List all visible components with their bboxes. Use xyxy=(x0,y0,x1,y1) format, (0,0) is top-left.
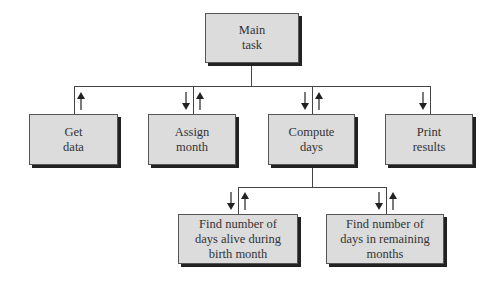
arrow-up-icon xyxy=(77,92,85,110)
arrow-down-icon xyxy=(227,192,235,210)
arrow-down-icon xyxy=(375,192,383,210)
connector-assign xyxy=(193,86,194,114)
node-main-task: Main task xyxy=(205,13,299,63)
node-assign-month: Assign month xyxy=(148,114,236,165)
node-compute-days: Compute days xyxy=(268,114,355,165)
arrow-down-icon xyxy=(301,92,309,110)
node-print-results: Print results xyxy=(385,114,473,165)
arrow-down-icon xyxy=(419,92,427,110)
arrow-up-icon xyxy=(315,92,323,110)
connector-birth xyxy=(238,187,239,214)
connector-remaining xyxy=(386,187,387,214)
connector-get xyxy=(74,86,75,114)
arrow-up-icon xyxy=(196,92,204,110)
arrow-up-icon xyxy=(389,192,397,210)
connector-compute xyxy=(312,86,313,114)
connector-print xyxy=(430,86,431,114)
node-birth-month-days: Find number of days alive during birth m… xyxy=(178,214,298,264)
node-get-data: Get data xyxy=(29,114,118,165)
node-remaining-months-days: Find number of days in remaining months xyxy=(326,214,444,264)
arrow-down-icon xyxy=(182,92,190,110)
connector-compute-down xyxy=(312,165,313,187)
arrow-up-icon xyxy=(241,192,249,210)
connector-level1-bus xyxy=(74,86,430,87)
connector-level2-bus xyxy=(238,187,386,188)
connector-main-down xyxy=(251,62,252,86)
